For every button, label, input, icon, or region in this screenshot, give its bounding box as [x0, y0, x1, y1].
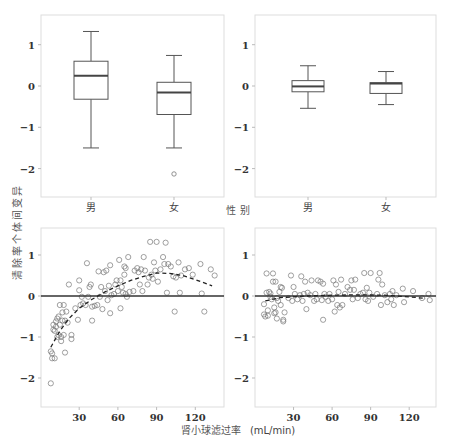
x-tick-label: 60	[325, 412, 339, 423]
y-tick-label: 1	[242, 250, 249, 261]
y-tick-label: 0	[242, 81, 249, 92]
y-tick-label: 0	[28, 291, 35, 302]
y-tick-label: −1	[20, 332, 35, 343]
y-tick-label: 1	[28, 40, 35, 51]
y-axis-label: 清除率个体间变异	[11, 184, 23, 280]
x-tick-label: 90	[364, 412, 378, 423]
y-tick-label: −1	[234, 332, 249, 343]
x-tick-label: 30	[287, 412, 301, 423]
y-tick-label: −2	[234, 164, 249, 175]
y-tick-label: −1	[234, 122, 249, 133]
plot-frame	[41, 228, 224, 407]
boxplot-panel-male-female-right: −2−101男女	[234, 15, 436, 213]
x-tick-label: 120	[185, 412, 206, 423]
x-tick-label: 90	[150, 412, 164, 423]
x-tick-label: 60	[111, 412, 125, 423]
x-tick-label: 30	[72, 412, 86, 423]
boxplot-panel-male-female-left: −2−101男女	[20, 15, 224, 213]
bottom-x-axis-label-unit: (mL/min)	[250, 425, 295, 436]
scatter-panel-gfr-right: −2−101306090120	[234, 228, 436, 423]
bottom-x-axis-label-cn: 肾小球滤过率	[181, 424, 241, 436]
x-tick-label: 120	[399, 412, 420, 423]
y-tick-label: −2	[20, 373, 35, 384]
y-tick-label: −1	[20, 122, 35, 133]
scatter-panel-gfr-left: −2−101306090120	[20, 228, 224, 423]
y-tick-label: 0	[242, 291, 249, 302]
y-tick-label: −2	[20, 164, 35, 175]
y-tick-label: 1	[242, 40, 249, 51]
plot-frame	[41, 15, 224, 197]
category-label: 男	[86, 202, 96, 213]
top-x-axis-label: 性 别	[226, 204, 249, 216]
y-tick-label: −2	[234, 373, 249, 384]
figure: −2−101男女 −2−101男女 −2−101306090120 −2−101…	[0, 0, 451, 445]
y-tick-label: 1	[28, 250, 35, 261]
y-tick-label: 0	[28, 81, 35, 92]
category-label: 男	[303, 202, 313, 213]
category-label: 女	[169, 201, 179, 213]
plot-frame	[255, 15, 436, 197]
category-label: 女	[381, 201, 391, 213]
